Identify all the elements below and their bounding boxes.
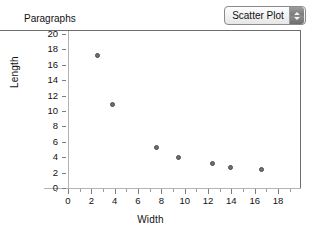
y-tick-label: 12 [47,89,58,102]
x-tick-label: 18 [268,195,288,207]
x-minor-tick [150,189,151,192]
x-tick-label: 6 [128,195,148,207]
x-tick-mark [161,189,162,194]
x-minor-tick [220,189,221,192]
plot-type-select[interactable]: Scatter Plot [224,6,306,25]
y-tick-mark [62,188,66,189]
x-tick-mark [68,189,69,194]
y-tick-label: 0 [53,181,58,194]
y-tick-mark [62,157,66,158]
y-tick-mark [62,80,66,81]
x-tick-label: 0 [58,195,78,207]
scatter-point[interactable] [210,161,215,166]
x-minor-tick [266,189,267,192]
x-tick-label: 16 [245,195,265,207]
plot-frame-right [300,30,301,189]
plot-area [68,31,300,188]
x-minor-tick [56,189,57,192]
x-tick-label: 8 [151,195,171,207]
y-tick-mark [62,111,66,112]
x-tick-mark [185,189,186,194]
y-tick-mark [62,96,66,97]
y-tick-mark [62,173,66,174]
y-tick-mark [62,49,66,50]
plot-type-stepper[interactable] [289,7,304,24]
y-tick-label: 2 [53,166,58,179]
x-minor-tick [173,189,174,192]
scatter-point[interactable] [228,165,233,170]
x-tick-label: 4 [105,195,125,207]
x-tick-mark [255,189,256,194]
scatter-point[interactable] [110,102,115,107]
scatter-point[interactable] [154,145,159,150]
y-axis-title: Length [9,56,21,88]
x-minor-tick [126,189,127,192]
x-axis-title: Width [0,214,301,226]
y-tick-label: 16 [47,58,58,71]
x-tick-label: 12 [198,195,218,207]
x-minor-tick [196,189,197,192]
y-tick-label: 18 [47,42,58,55]
x-minor-tick [103,189,104,192]
y-tick-label: 6 [53,135,58,148]
x-tick-mark [91,189,92,194]
x-minor-tick [243,189,244,192]
x-tick-mark [208,189,209,194]
plot-type-select-label: Scatter Plot [225,7,289,24]
y-tick-mark [62,34,66,35]
x-minor-tick [290,189,291,192]
x-tick-label: 2 [81,195,101,207]
y-tick-label: 10 [47,104,58,117]
y-tick-label: 20 [47,27,58,40]
scatter-point[interactable] [176,155,181,160]
x-tick-mark [278,189,279,194]
y-tick-label: 4 [53,150,58,163]
scatter-point[interactable] [95,53,100,58]
x-tick-mark [138,189,139,194]
triangle-down-icon[interactable] [294,17,300,20]
scatter-point[interactable] [259,167,264,172]
x-tick-mark [231,189,232,194]
y-tick-mark [62,126,66,127]
chart-title: Paragraphs [24,13,76,25]
triangle-up-icon[interactable] [294,12,300,15]
y-tick-label: 8 [53,119,58,132]
y-tick-mark [62,142,66,143]
y-tick-label: 14 [47,73,58,86]
x-tick-label: 14 [221,195,241,207]
x-minor-tick [80,189,81,192]
scatter-plot-window: Scatter Plot Paragraphs Length Width 024… [0,0,317,244]
y-tick-mark [62,65,66,66]
x-tick-mark [115,189,116,194]
x-tick-label: 10 [175,195,195,207]
